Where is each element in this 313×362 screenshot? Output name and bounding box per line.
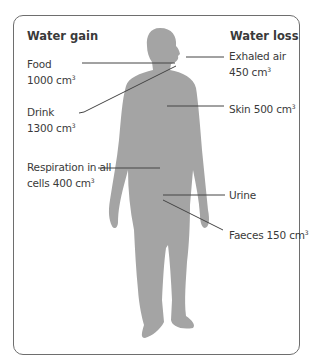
water-gain-header: Water gain: [27, 29, 98, 43]
label-skin: Skin 500 cm3: [229, 100, 295, 116]
label-drink: Drink 1300 cm3: [27, 106, 75, 135]
label-urine: Urine: [229, 189, 256, 202]
label-faeces: Faeces 150 cm3: [229, 226, 308, 242]
label-exhaled-air: Exhaled air 450 cm3: [229, 50, 286, 79]
label-respiration: Respiration in all cells 400 cm3: [27, 161, 111, 190]
label-food: Food 1000 cm3: [27, 58, 75, 87]
water-loss-header: Water loss: [230, 29, 299, 43]
